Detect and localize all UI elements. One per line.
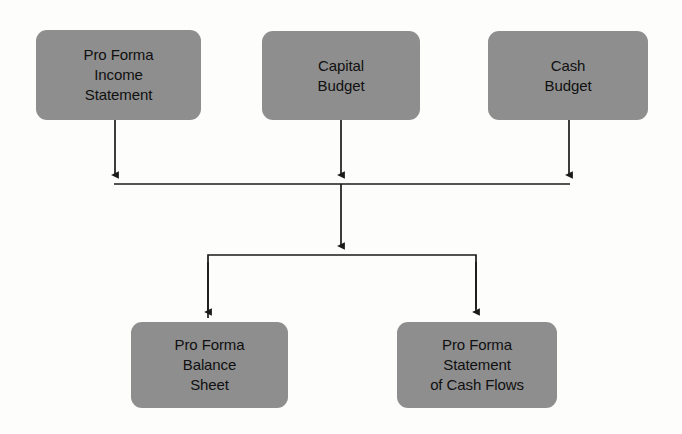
node-label-line: Budget xyxy=(545,76,592,96)
node-label-line: Pro Forma xyxy=(175,335,245,355)
node-label-line: Pro Forma xyxy=(442,335,512,355)
node-label-line: Pro Forma xyxy=(84,45,154,65)
node-label-line: Cash xyxy=(551,56,586,76)
node-cash-budget: Cash Budget xyxy=(488,31,648,120)
node-label-line: Budget xyxy=(318,76,365,96)
node-capital-budget: Capital Budget xyxy=(262,31,420,120)
node-label-line: Statement xyxy=(443,355,510,375)
node-label-line: Sheet xyxy=(190,375,229,395)
node-label-line: Capital xyxy=(318,56,364,76)
node-pro-forma-statement-of-cash-flows: Pro Forma Statement of Cash Flows xyxy=(397,322,557,408)
split-bus-lower xyxy=(208,255,476,318)
node-label-line: Income xyxy=(94,65,143,85)
flow-diagram: Pro Forma Income Statement Capital Budge… xyxy=(0,0,682,434)
node-label-line: Balance xyxy=(183,355,237,375)
node-pro-forma-income-statement: Pro Forma Income Statement xyxy=(36,30,201,120)
node-pro-forma-balance-sheet: Pro Forma Balance Sheet xyxy=(131,322,288,408)
node-label-line: of Cash Flows xyxy=(430,375,524,395)
node-label-line: Statement xyxy=(85,85,152,105)
